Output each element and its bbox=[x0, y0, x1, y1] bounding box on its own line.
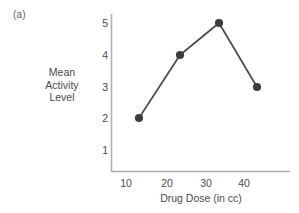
chart-figure: (a) Mean Activity Level 5 4 3 2 1 10 20 … bbox=[0, 0, 299, 213]
data-point-marker bbox=[215, 19, 223, 27]
plot-area bbox=[0, 0, 299, 213]
data-point-marker bbox=[135, 114, 143, 122]
data-point-marker bbox=[253, 83, 261, 91]
data-line bbox=[139, 23, 257, 118]
data-markers bbox=[135, 19, 261, 122]
x-axis-title: Drug Dose (in cc) bbox=[111, 192, 291, 204]
data-point-marker bbox=[176, 51, 184, 59]
